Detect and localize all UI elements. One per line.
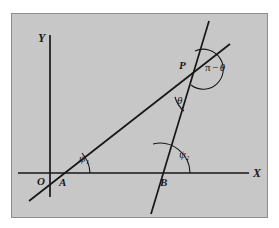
- psi2-symbol: ψ: [179, 148, 186, 160]
- figure-frame: Y X O A B P ψ1 ψ2 θ π−θ: [11, 13, 268, 218]
- figure-root: Y X O A B P ψ1 ψ2 θ π−θ: [0, 0, 279, 228]
- psi2-subscript: 2: [186, 154, 190, 162]
- point-b-label: B: [160, 177, 167, 188]
- pi-symbol: π: [205, 61, 211, 73]
- figure-drawing: [12, 14, 268, 218]
- angle-label-pi-minus-theta: π−θ: [205, 62, 226, 73]
- psi1-symbol: ψ: [79, 152, 86, 164]
- point-p-label: P: [179, 60, 186, 71]
- theta-symbol: θ: [220, 61, 226, 73]
- y-axis-label: Y: [38, 32, 45, 44]
- angle-label-theta: θ: [177, 95, 182, 106]
- point-a-label: A: [59, 177, 66, 188]
- angle-label-psi1: ψ1: [79, 153, 89, 166]
- origin-label: O: [37, 176, 45, 187]
- psi1-subscript: 1: [86, 158, 90, 166]
- minus-symbol: −: [212, 61, 219, 73]
- angle-label-psi2: ψ2: [179, 149, 189, 162]
- x-axis-label: X: [253, 167, 261, 179]
